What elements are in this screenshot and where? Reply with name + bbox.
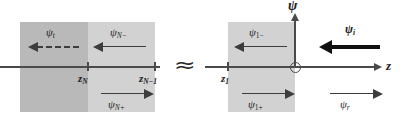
wave-label-psi-i-base: ψ <box>345 22 353 36</box>
origin-marker-icon <box>290 62 301 73</box>
wave-label-psi-1-minus-base: ψ <box>249 26 256 38</box>
wave-label-psi-1-plus-sub: 1+ <box>255 103 263 112</box>
wave-label-psi-1-plus: ψ1+ <box>248 98 263 112</box>
wave-label-psi-r-base: ψ <box>340 98 347 110</box>
wave-propagation-diagram: z ψ ≈ zN zN−1 z1 ψt ψN− ψN+ ψ1− ψ1+ <box>0 0 407 133</box>
wave-label-psi-1-minus-sub: 1− <box>256 31 264 40</box>
wave-label-psi-i: ψi <box>345 22 355 37</box>
wave-label-psi-N-plus-sub: N+ <box>115 103 125 112</box>
axis-break-icon: ≈ <box>174 53 196 77</box>
wave-label-psi-N-minus: ψN− <box>110 26 127 40</box>
z-axis-arrowhead-icon <box>374 63 382 71</box>
tick-label-z-N-sub: N <box>82 77 87 86</box>
wave-label-psi-N-minus-sub: N− <box>117 31 127 40</box>
psi-axis-arrowhead-icon <box>291 13 299 21</box>
wave-label-psi-r-sub: r <box>347 103 350 112</box>
wave-label-psi-N-plus: ψN+ <box>108 98 125 112</box>
z-axis-label: z <box>386 58 391 74</box>
tick-z-N-1 <box>154 62 156 71</box>
wave-label-psi-N-minus-base: ψ <box>110 26 117 38</box>
psi-axis-line <box>294 20 296 68</box>
wave-label-psi-r: ψr <box>340 98 350 112</box>
wave-label-psi-1-minus: ψ1− <box>249 26 264 40</box>
wave-label-psi-1-plus-base: ψ <box>248 98 255 110</box>
tick-label-z-1: z1 <box>221 72 229 86</box>
wave-label-psi-t-sub: t <box>53 31 55 40</box>
tick-label-z-1-sub: 1 <box>225 77 229 86</box>
tick-z-1 <box>227 62 229 71</box>
tick-label-z-N: zN <box>78 72 88 86</box>
wave-label-psi-i-sub: i <box>353 28 355 37</box>
tick-label-z-N-minus-1-sub: N−1 <box>143 77 157 86</box>
tick-z-N <box>87 62 89 71</box>
z-axis-left-segment <box>0 66 160 68</box>
wave-label-psi-t-base: ψ <box>46 26 53 38</box>
wave-label-psi-N-plus-base: ψ <box>108 98 115 110</box>
tick-label-z-N-minus-1: zN−1 <box>139 72 157 86</box>
psi-axis-label: ψ <box>288 0 297 14</box>
wave-label-psi-t: ψt <box>46 26 55 40</box>
